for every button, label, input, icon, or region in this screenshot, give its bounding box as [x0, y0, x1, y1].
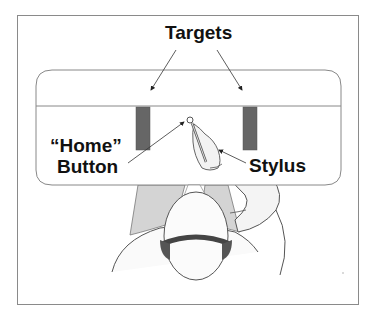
right-target [243, 107, 257, 150]
left-target [136, 107, 150, 150]
home-button [187, 117, 193, 123]
experiment-setup-illustration [0, 0, 368, 317]
targets-label: Targets [165, 23, 232, 43]
stylus-label: Stylus [249, 156, 306, 176]
home-label: “Home” [50, 136, 122, 156]
button-label: Button [57, 157, 118, 177]
speck [342, 272, 344, 274]
